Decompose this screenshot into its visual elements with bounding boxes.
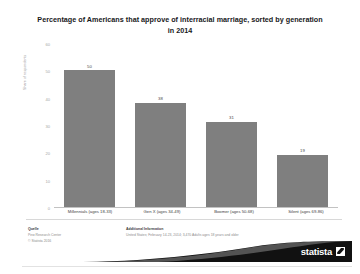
bar[interactable] [206, 122, 256, 207]
statista-logo-bar: statista [8, 241, 352, 262]
statista-wordmark: statista [301, 247, 332, 257]
x-axis-category-labels: Millennials (ages 18-33)Gen X (ages 34-4… [54, 210, 342, 214]
statista-logo-icon [336, 247, 345, 256]
additional-information-text: United States; February 14-23, 2014; 3,4… [126, 233, 239, 237]
plot-area: Share of respondents 0102030405060 50383… [26, 44, 342, 208]
chart-title: Percentage of Americans that approve of … [34, 14, 326, 36]
bar-value-label: 31 [229, 116, 234, 120]
additional-information-heading: Additional Information [126, 226, 276, 232]
bar-slot: 31 [197, 44, 267, 207]
bar-value-label: 19 [300, 149, 305, 153]
bar[interactable] [135, 103, 185, 207]
y-axis-tick-label: 0 [34, 206, 50, 211]
y-axis-tick-label: 20 [34, 151, 50, 156]
category-label: Gen X (ages 34-49) [127, 210, 198, 214]
category-label: Silent (ages 69-86) [271, 210, 342, 214]
category-label: Boomer (ages 50-68) [199, 210, 270, 214]
bar-value-label: 50 [87, 65, 92, 69]
bar[interactable] [64, 70, 114, 207]
y-axis-tick-label: 30 [34, 124, 50, 129]
statista-chart-card: Percentage of Americans that approve of … [8, 4, 352, 266]
bar-slot: 50 [55, 44, 125, 207]
bar-series: 50383119 [54, 44, 338, 207]
bar-value-label: 38 [158, 97, 163, 101]
category-label: Millennials (ages 18-33) [55, 210, 126, 214]
y-axis-tick-label: 40 [34, 96, 50, 101]
y-axis-tick-label: 10 [34, 178, 50, 183]
x-axis-baseline [54, 207, 338, 208]
additional-information-block: Additional Information United States; Fe… [126, 226, 276, 239]
bar[interactable] [277, 155, 327, 207]
y-axis-tick-label: 50 [34, 69, 50, 74]
source-heading: Quelle [28, 226, 98, 232]
bottom-divider [22, 266, 352, 267]
bar-slot: 19 [268, 44, 338, 207]
bar-slot: 38 [126, 44, 196, 207]
y-axis-tick-label: 60 [34, 42, 50, 47]
footer-divider [26, 219, 342, 220]
y-axis-title: Share of respondents [23, 14, 27, 90]
